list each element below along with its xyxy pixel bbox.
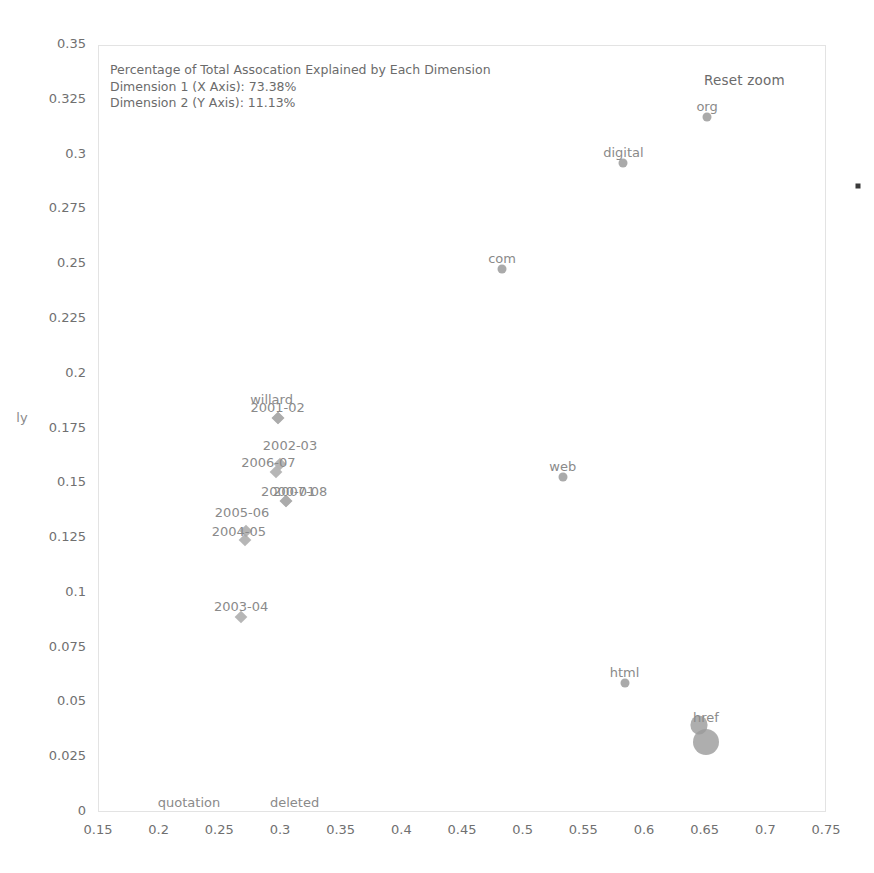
stray-marker-dot xyxy=(856,184,861,189)
y-tick-0.075: 0.075 xyxy=(16,639,86,654)
y-tick-0.15: 0.15 xyxy=(16,474,86,489)
point-label-2006-07: 2006-07 xyxy=(241,455,295,470)
point-label-deleted: deleted xyxy=(270,795,319,810)
point-label-digital: digital xyxy=(603,145,643,160)
reset-zoom-button[interactable]: Reset zoom xyxy=(704,72,785,88)
y-tick-0: 0 xyxy=(16,803,86,818)
x-tick-0.4: 0.4 xyxy=(371,822,431,837)
x-tick-0.15: 0.15 xyxy=(68,822,128,837)
x-tick-0.65: 0.65 xyxy=(675,822,735,837)
annotation-line-1: Percentage of Total Assocation Explained… xyxy=(110,62,491,79)
y-tick-0.1: 0.1 xyxy=(16,584,86,599)
x-tick-0.2: 0.2 xyxy=(129,822,189,837)
x-tick-0.35: 0.35 xyxy=(311,822,371,837)
y-tick-0.25: 0.25 xyxy=(16,255,86,270)
point-label-html: html xyxy=(610,665,640,680)
point-label-2005-06: 2005-06 xyxy=(215,505,269,520)
point-label-2004-05: 2004-05 xyxy=(212,524,266,539)
annotation-line-3: Dimension 2 (Y Axis): 11.13% xyxy=(110,95,491,112)
chart-annotation: Percentage of Total Assocation Explained… xyxy=(110,62,491,112)
x-tick-0.45: 0.45 xyxy=(432,822,492,837)
y-tick-0.325: 0.325 xyxy=(16,91,86,106)
point-label-href: href xyxy=(693,710,719,725)
x-tick-0.3: 0.3 xyxy=(250,822,310,837)
point-label-ly: ly xyxy=(16,410,27,425)
x-tick-0.7: 0.7 xyxy=(735,822,795,837)
y-tick-0.225: 0.225 xyxy=(16,310,86,325)
x-tick-0.25: 0.25 xyxy=(189,822,249,837)
point-label-2002-03: 2002-03 xyxy=(263,438,317,453)
point-label-com: com xyxy=(488,251,516,266)
point-label-2007-08: 2007-08 xyxy=(273,484,327,499)
point-label-org: org xyxy=(696,99,717,114)
point-label-web: web xyxy=(549,459,576,474)
x-tick-0.5: 0.5 xyxy=(493,822,553,837)
y-tick-0.025: 0.025 xyxy=(16,748,86,763)
x-tick-0.55: 0.55 xyxy=(553,822,613,837)
x-tick-0.75: 0.75 xyxy=(796,822,856,837)
y-tick-0.2: 0.2 xyxy=(16,365,86,380)
y-tick-0.125: 0.125 xyxy=(16,529,86,544)
point-label-quotation: quotation xyxy=(158,795,220,810)
x-tick-0.6: 0.6 xyxy=(614,822,674,837)
y-tick-0.05: 0.05 xyxy=(16,693,86,708)
point-label-2003-04: 2003-04 xyxy=(214,599,268,614)
y-tick-0.35: 0.35 xyxy=(16,36,86,51)
annotation-line-2: Dimension 1 (X Axis): 73.38% xyxy=(110,79,491,96)
y-tick-0.275: 0.275 xyxy=(16,200,86,215)
chart-canvas: Percentage of Total Assocation Explained… xyxy=(0,0,874,873)
y-tick-0.3: 0.3 xyxy=(16,146,86,161)
point-label-2001-02: 2001-02 xyxy=(250,400,304,415)
plot-area[interactable] xyxy=(98,45,826,812)
